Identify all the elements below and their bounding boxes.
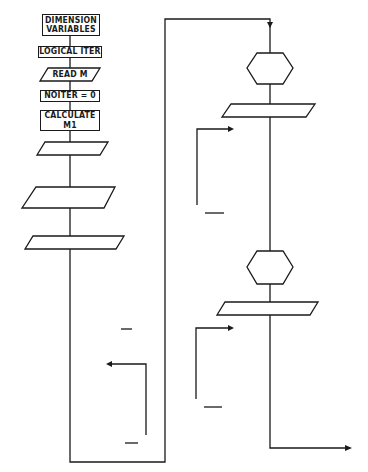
noiter-zero-box: NOITER = 0	[40, 90, 100, 102]
flowchart: DIMENSION VARIABLES LOGICAL ITER READ M …	[0, 0, 368, 472]
read-m-box: READ M	[40, 68, 100, 81]
logical-iter-box: LOGICAL ITER	[38, 46, 102, 58]
calculate-m1-box: CALCULATE M1	[40, 110, 100, 131]
dimension-variables-box: DIMENSION VARIABLES	[42, 14, 100, 36]
